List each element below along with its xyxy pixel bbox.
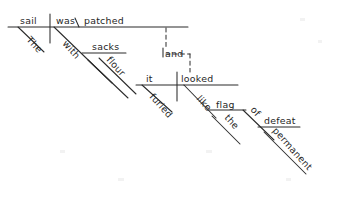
word-it: it — [146, 73, 153, 84]
word-the-2: the — [223, 112, 242, 131]
word-sacks: sacks — [92, 41, 119, 52]
word-with: with — [61, 38, 83, 61]
clause-1-complement-divider — [75, 18, 79, 27]
word-furled: furled — [148, 91, 176, 120]
sentence-diagram-canvas: sail The was patched with sacks flour an… — [0, 0, 342, 197]
word-labels: sail The was patched with sacks flour an… — [20, 15, 315, 172]
word-and: and — [165, 48, 183, 59]
word-sail: sail — [20, 15, 37, 26]
word-flag: flag — [216, 99, 235, 110]
word-the-1: The — [24, 33, 45, 55]
word-permanent: permanent — [271, 125, 315, 172]
word-defeat: defeat — [264, 115, 296, 126]
word-patched: patched — [84, 15, 124, 26]
word-looked: looked — [181, 73, 213, 84]
word-was: was — [56, 15, 75, 26]
word-of-2: of — [249, 104, 264, 119]
sentence-diagram: sail The was patched with sacks flour an… — [0, 0, 342, 197]
